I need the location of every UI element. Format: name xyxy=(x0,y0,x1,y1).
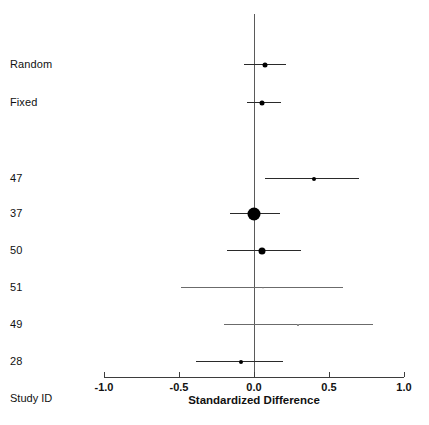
row-label-37: 37 xyxy=(10,207,22,219)
x-axis-line xyxy=(104,377,404,378)
point-estimate-marker xyxy=(312,177,316,181)
row-label-51: 51 xyxy=(10,281,22,293)
reference-line-zero xyxy=(254,14,255,377)
point-estimate-marker xyxy=(262,62,267,67)
forest-plot-figure: RandomFixed473750514928 -1.0-0.50.00.51.… xyxy=(0,0,429,425)
x-axis-tick-label: 0.5 xyxy=(321,381,336,393)
x-axis-tick-label: -0.5 xyxy=(170,381,189,393)
confidence-interval-line xyxy=(181,287,343,288)
row-label-50: 50 xyxy=(10,244,22,256)
x-axis-tick xyxy=(254,372,255,377)
row-label-random: Random xyxy=(10,58,52,70)
row-label-49: 49 xyxy=(10,318,22,330)
x-axis-tick-label: -1.0 xyxy=(95,381,114,393)
row-label-fixed: Fixed xyxy=(10,96,37,108)
point-estimate-marker xyxy=(297,324,299,326)
x-axis-title: Standardized Difference xyxy=(188,394,320,406)
row-label-47: 47 xyxy=(10,172,22,184)
point-estimate-marker xyxy=(248,207,261,220)
point-estimate-marker xyxy=(258,247,265,254)
x-axis-tick-label: 0.0 xyxy=(246,381,261,393)
x-axis-tick-label: 1.0 xyxy=(396,381,411,393)
study-id-column-header: Study ID xyxy=(10,392,52,404)
point-estimate-marker xyxy=(259,100,264,105)
x-axis-tick xyxy=(329,372,330,377)
x-axis-tick xyxy=(179,372,180,377)
x-axis-tick xyxy=(104,372,105,377)
row-label-28: 28 xyxy=(10,355,22,367)
x-axis-tick xyxy=(404,372,405,377)
point-estimate-marker xyxy=(263,287,264,288)
point-estimate-marker xyxy=(239,360,243,364)
